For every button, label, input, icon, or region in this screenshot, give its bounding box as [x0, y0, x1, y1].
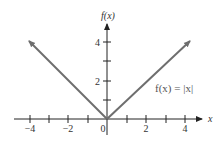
x-tick-label: −4	[25, 123, 36, 134]
graph-right-branch	[107, 41, 190, 119]
abs-value-graph: −4 −2 0 2 4 2 4 f(x) x f(x) = |x|	[0, 0, 220, 144]
y-tick-label: 2	[95, 76, 100, 87]
x-tick-label: −2	[63, 123, 74, 134]
x-tick-label: 4	[183, 123, 188, 134]
y-tick-label: 4	[95, 37, 100, 48]
function-label: f(x) = |x|	[155, 82, 193, 95]
x-tick-label: 0	[101, 123, 106, 134]
y-axis-label: f(x)	[101, 10, 116, 22]
x-tick-label: 2	[144, 123, 149, 134]
x-axis-label: x	[207, 113, 213, 124]
